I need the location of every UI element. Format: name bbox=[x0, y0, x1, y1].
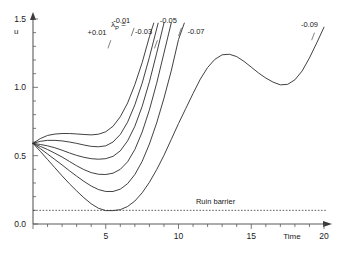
y-axis-title: u bbox=[14, 27, 18, 36]
series-curve--005 bbox=[33, 23, 171, 174]
series-label--005: -0.05 bbox=[160, 16, 177, 25]
y-tick-label: 0.5 bbox=[14, 151, 26, 161]
series-label--003: -0.03 bbox=[135, 27, 152, 36]
x-axis-title: Time bbox=[283, 232, 301, 241]
series-curve--007 bbox=[33, 23, 184, 191]
series-label--001: -0.01 bbox=[113, 16, 130, 25]
series-label--009: -0.09 bbox=[301, 20, 318, 29]
series-label-leader bbox=[154, 40, 157, 48]
series-label-001: +0.01 bbox=[88, 28, 107, 37]
series-curve--009 bbox=[33, 27, 324, 210]
x-tick-label: 10 bbox=[174, 231, 184, 241]
chart-container: 0.00.51.01.55101520uTimeRuin barrierλP =… bbox=[0, 0, 349, 254]
x-tick-label: 5 bbox=[103, 231, 108, 241]
ruin-barrier-label: Ruin barrier bbox=[196, 197, 236, 206]
series-label--007: -0.07 bbox=[187, 27, 204, 36]
series-label-leader bbox=[131, 28, 134, 36]
x-tick-label: 15 bbox=[247, 231, 257, 241]
series-label-leader bbox=[312, 33, 315, 41]
y-tick-label: 0.0 bbox=[14, 219, 26, 229]
series-label-leader bbox=[108, 40, 111, 48]
y-tick-label: 1.5 bbox=[14, 14, 26, 24]
series-curve--003 bbox=[33, 23, 164, 159]
series-curve--001 bbox=[33, 23, 158, 147]
line-chart: 0.00.51.01.55101520uTimeRuin barrierλP =… bbox=[0, 0, 349, 254]
y-tick-label: 1.0 bbox=[14, 82, 26, 92]
x-tick-label: 20 bbox=[319, 231, 329, 241]
